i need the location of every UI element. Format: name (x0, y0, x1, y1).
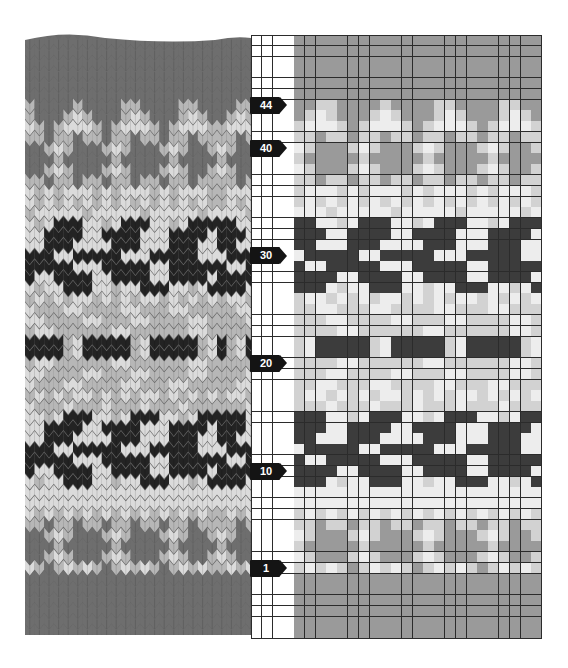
chart-cell (445, 261, 456, 272)
chart-cell (326, 121, 337, 132)
chart-cell (402, 520, 413, 531)
chart-cell (380, 498, 391, 509)
chart-margin-cell (273, 57, 284, 68)
chart-margin-cell (251, 272, 262, 283)
chart-cell (294, 530, 305, 541)
chart-cell (521, 304, 532, 315)
chart-cell (510, 35, 521, 46)
chart-cell (488, 606, 499, 617)
chart-cell (488, 207, 499, 218)
chart-cell (510, 466, 521, 477)
chart-cell (467, 132, 478, 143)
chart-cell (348, 326, 359, 337)
chart-margin-cell (262, 617, 273, 628)
chart-cell (423, 455, 434, 466)
chart-margin-cell (273, 46, 284, 57)
chart-cell (337, 530, 348, 541)
chart-cell (488, 347, 499, 358)
chart-cell (370, 100, 381, 111)
chart-cell (326, 110, 337, 121)
chart-cell (467, 57, 478, 68)
chart-cell (423, 35, 434, 46)
chart-cell (294, 552, 305, 563)
chart-cell (521, 347, 532, 358)
chart-cell (531, 380, 542, 391)
chart-cell (521, 466, 532, 477)
chart-cell (477, 617, 488, 628)
chart-cell (510, 218, 521, 229)
chart-cell (531, 78, 542, 89)
chart-cell (499, 175, 510, 186)
chart-cell (380, 627, 391, 638)
chart-cell (456, 197, 467, 208)
chart-cell (402, 67, 413, 78)
chart-cell (499, 89, 510, 100)
chart-cell (326, 229, 337, 240)
chart-cell (531, 175, 542, 186)
chart-cell (359, 293, 370, 304)
chart-cell (521, 272, 532, 283)
chart-cell (316, 574, 327, 585)
chart-cell (488, 337, 499, 348)
chart-cell (456, 272, 467, 283)
chart-cell (359, 444, 370, 455)
chart-cell (445, 207, 456, 218)
chart-cell (456, 315, 467, 326)
chart-cell (370, 337, 381, 348)
chart-cell (348, 57, 359, 68)
chart-cell (359, 358, 370, 369)
chart-margin-cell (273, 121, 284, 132)
chart-cell (391, 175, 402, 186)
chart-cell (380, 584, 391, 595)
chart-cell (510, 530, 521, 541)
chart-cell (305, 283, 316, 294)
chart-cell (305, 423, 316, 434)
chart-cell (434, 132, 445, 143)
chart-margin-cell (251, 197, 262, 208)
chart-cell (380, 574, 391, 585)
chart-cell (413, 315, 424, 326)
chart-cell (305, 347, 316, 358)
chart-cell (370, 574, 381, 585)
chart-cell (370, 627, 381, 638)
chart-cell (337, 563, 348, 574)
chart-cell (423, 207, 434, 218)
chart-cell (456, 380, 467, 391)
chart-cell (359, 250, 370, 261)
chart-cell (456, 466, 467, 477)
chart-margin-cell (273, 412, 284, 423)
chart-cell (413, 186, 424, 197)
chart-margin-cell (251, 390, 262, 401)
chart-cell (359, 477, 370, 488)
chart-cell (521, 627, 532, 638)
chart-cell (391, 110, 402, 121)
chart-cell (488, 240, 499, 251)
chart-cell (380, 541, 391, 552)
chart-cell (434, 509, 445, 520)
chart-cell (488, 283, 499, 294)
chart-cell (434, 326, 445, 337)
chart-cell (521, 412, 532, 423)
chart-cell (445, 444, 456, 455)
chart-cell (337, 433, 348, 444)
chart-cell (434, 627, 445, 638)
chart-cell (305, 477, 316, 488)
chart-cell (499, 207, 510, 218)
chart-cell (359, 110, 370, 121)
chart-margin-cell (273, 509, 284, 520)
chart-cell (423, 358, 434, 369)
chart-cell (348, 89, 359, 100)
chart-cell (445, 530, 456, 541)
chart-cell (521, 433, 532, 444)
chart-cell (305, 390, 316, 401)
chart-cell (456, 401, 467, 412)
chart-cell (337, 293, 348, 304)
chart-cell (294, 347, 305, 358)
chart-cell (488, 520, 499, 531)
chart-cell (413, 466, 424, 477)
chart-cell (434, 455, 445, 466)
chart-cell (488, 369, 499, 380)
chart-cell (370, 466, 381, 477)
chart-cell (391, 337, 402, 348)
chart-cell (445, 229, 456, 240)
